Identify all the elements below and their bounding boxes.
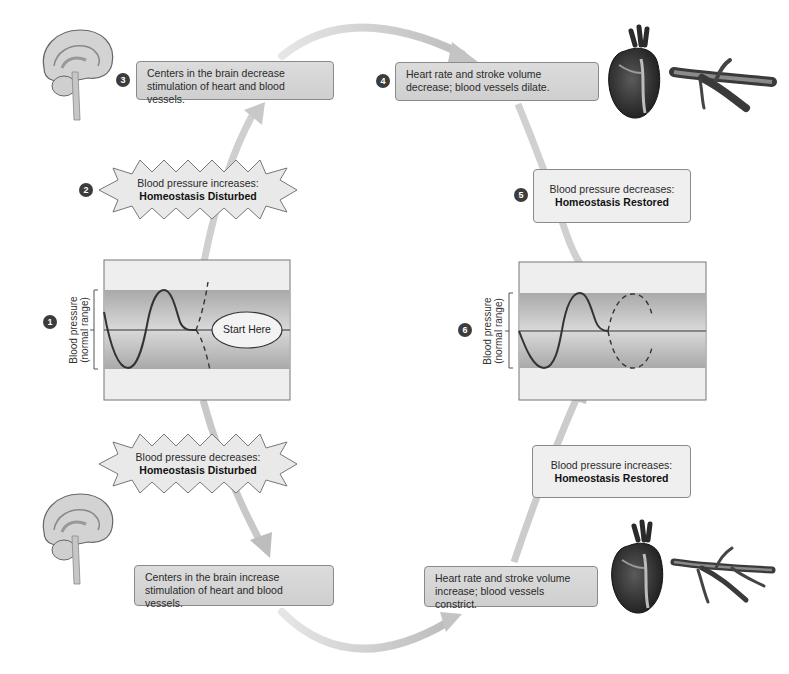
y-axis-label-line2: (normal range) [493, 291, 504, 371]
start-here-label: Start Here [212, 323, 282, 335]
graph-right-y-axis-label: Blood pressure (normal range) [482, 291, 506, 371]
diagram-graphics [0, 0, 789, 674]
effectors-increase-text: Heart rate and stroke volume increase; b… [435, 572, 570, 610]
starburst-line1: Blood pressure decreases: [120, 451, 276, 464]
y-axis-label-line2: (normal range) [79, 290, 90, 370]
step-badge-6: 6 [458, 323, 472, 337]
step-badge-5: 5 [514, 188, 528, 202]
blood-vessel-icon-dilated [674, 60, 772, 108]
y-axis-label-line1: Blood pressure [68, 290, 79, 370]
brain-icon [43, 494, 112, 584]
graph-blood-pressure-right [505, 262, 706, 400]
arrow-brain-to-heart-top [282, 27, 478, 62]
step-badge-3: 3 [116, 73, 130, 87]
starburst-increase-disturbed-text: Blood pressure increases: Homeostasis Di… [120, 177, 276, 203]
effectors-increase-box: Heart rate and stroke volume increase; b… [424, 566, 598, 607]
brain-decrease-box: Centers in the brain decrease stimulatio… [136, 61, 334, 100]
restored-line2: Homeostasis Restored [544, 196, 680, 209]
graph-left-y-axis-label: Blood pressure (normal range) [68, 290, 92, 370]
effectors-decrease-text: Heart rate and stroke volume decrease; b… [406, 68, 550, 93]
starburst-decrease-disturbed-text: Blood pressure decreases: Homeostasis Di… [120, 451, 276, 477]
restored-line2: Homeostasis Restored [543, 472, 680, 485]
restored-line1: Blood pressure decreases: [544, 183, 680, 196]
blood-vessel-icon-constricted [674, 548, 772, 602]
heart-icon [609, 27, 660, 118]
starburst-line2: Homeostasis Disturbed [139, 190, 256, 202]
restored-line1: Blood pressure increases: [543, 459, 680, 472]
step-badge-4: 4 [376, 74, 390, 88]
step-badge-1: 1 [43, 315, 57, 329]
starburst-line2: Homeostasis Disturbed [139, 464, 256, 476]
arrow-brain-to-heart-bottom [282, 612, 462, 649]
bp-increases-restored-box: Blood pressure increases: Homeostasis Re… [532, 445, 691, 498]
bp-decreases-restored-box: Blood pressure decreases: Homeostasis Re… [533, 169, 691, 223]
brain-increase-text: Centers in the brain increase stimulatio… [145, 571, 283, 609]
brain-icon [43, 30, 112, 120]
heart-icon [612, 522, 663, 613]
y-axis-label-line1: Blood pressure [482, 291, 493, 371]
brain-decrease-text: Centers in the brain decrease stimulatio… [147, 67, 285, 105]
brain-increase-box: Centers in the brain increase stimulatio… [134, 565, 334, 606]
starburst-line1: Blood pressure increases: [120, 177, 276, 190]
step-badge-2: 2 [79, 183, 93, 197]
effectors-decrease-box: Heart rate and stroke volume decrease; b… [395, 62, 599, 101]
